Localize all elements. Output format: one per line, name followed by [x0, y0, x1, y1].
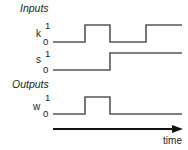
signal-s-low-label: 0	[43, 64, 48, 75]
signal-w-waveform	[53, 97, 182, 114]
signal-s-waveform	[53, 53, 182, 70]
inputs-section-label: Inputs	[20, 2, 49, 14]
time-axis-label: time	[163, 135, 182, 146]
time-axis-arrowhead-icon	[172, 125, 183, 133]
signal-k-waveform	[53, 25, 182, 42]
signal-s-high-label: 1	[45, 48, 50, 59]
signal-w-high-label: 1	[45, 92, 50, 103]
signal-k-low-label: 0	[43, 36, 48, 47]
signal-w-name: w	[32, 101, 41, 112]
outputs-section-label: Outputs	[12, 78, 50, 90]
signal-k-high-label: 1	[45, 20, 50, 31]
timing-diagram: Inputs k 1 0 s 1 0 Outputs w 1 0 time	[0, 0, 188, 150]
signal-w-low-label: 0	[43, 108, 48, 119]
signal-s-name: s	[36, 54, 41, 65]
signal-k-name: k	[36, 28, 42, 39]
